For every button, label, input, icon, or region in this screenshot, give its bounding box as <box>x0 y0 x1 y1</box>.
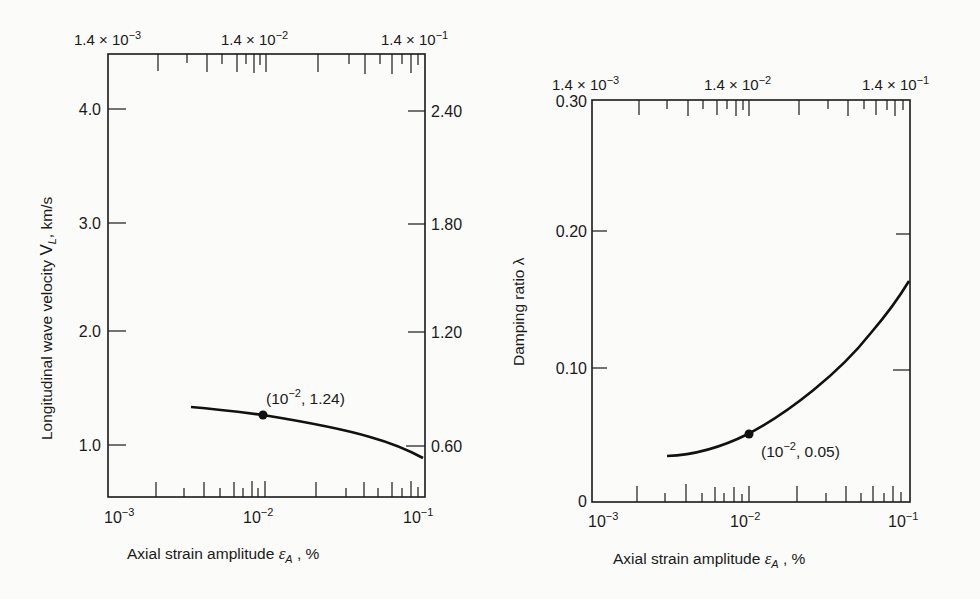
left-x-label-1: 10−2 <box>243 506 273 526</box>
left-y-ticks <box>108 109 126 445</box>
left-top-ticks <box>158 54 418 74</box>
left-bottom-ticks <box>156 481 418 497</box>
left-velocity-curve <box>191 407 423 458</box>
right-chart: 1.4 × 10−3 1.4 × 10−2 1.4 × 10−1 0.30 0.… <box>510 74 929 570</box>
left-right-label-120: 1.20 <box>431 324 462 341</box>
right-x-label-2: 10−1 <box>888 510 918 530</box>
right-y-label-030: 0.30 <box>556 93 587 110</box>
left-top-label-2: 1.4 × 10−1 <box>381 29 448 48</box>
left-x-label-2: 10−1 <box>403 506 433 526</box>
left-x-label-0: 10−3 <box>104 506 134 526</box>
left-marker-point <box>259 411 268 420</box>
right-x-label-1: 10−2 <box>730 510 760 530</box>
right-top-label-0: 1.4 × 10−3 <box>552 74 619 93</box>
figure: 1.4 × 10−3 1.4 × 10−2 1.4 × 10−1 4.0 3.0… <box>0 0 980 599</box>
right-y-axis-title: Damping ratio λ <box>510 257 527 366</box>
right-top-ticks <box>639 100 903 116</box>
right-top-label-1: 1.4 × 10−2 <box>704 74 771 93</box>
right-y-label-020: 0.20 <box>556 223 587 240</box>
right-x-axis-title: Axial strain amplitude εA , % <box>613 549 806 570</box>
left-y-label-2: 2.0 <box>79 323 101 340</box>
right-plot-frame <box>592 100 910 502</box>
left-y-label-3: 3.0 <box>79 215 101 232</box>
right-y-label-010: 0.10 <box>556 360 587 377</box>
right-bottom-ticks <box>637 484 901 502</box>
right-y-label-0: 0 <box>578 493 587 510</box>
left-annotation: (10−2, 1.24) <box>266 387 345 407</box>
right-marker-point <box>745 430 754 439</box>
left-right-label-240: 2.40 <box>431 103 462 120</box>
left-x-axis-title: Axial strain amplitude εA , % <box>127 544 320 565</box>
left-y-axis-title: Longitudinal wave velocity VL, km/s <box>37 197 58 440</box>
left-right-label-180: 1.80 <box>431 216 462 233</box>
right-damping-curve <box>667 281 909 456</box>
left-y-label-1: 1.0 <box>79 437 101 454</box>
right-y-ticks <box>592 231 607 368</box>
right-top-label-2: 1.4 × 10−1 <box>862 74 929 93</box>
left-top-label-1: 1.4 × 10−2 <box>221 29 288 48</box>
left-right-y-ticks <box>406 111 425 446</box>
right-annotation: (10−2, 0.05) <box>761 440 840 460</box>
left-chart: 1.4 × 10−3 1.4 × 10−2 1.4 × 10−1 4.0 3.0… <box>37 29 462 565</box>
right-x-label-0: 10−3 <box>588 510 618 530</box>
left-top-label-0: 1.4 × 10−3 <box>74 29 141 48</box>
left-plot-frame <box>108 54 425 497</box>
left-y-label-4: 4.0 <box>79 101 101 118</box>
left-right-label-060: 0.60 <box>431 438 462 455</box>
